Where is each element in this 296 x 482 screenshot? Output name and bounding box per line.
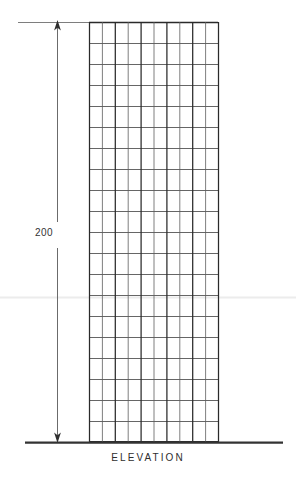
elevation-drawing-canvas xyxy=(0,0,296,482)
drawing-background xyxy=(0,0,296,482)
dimension-value-label: 200 xyxy=(0,227,88,238)
view-title-label: ELEVATION xyxy=(0,452,296,463)
